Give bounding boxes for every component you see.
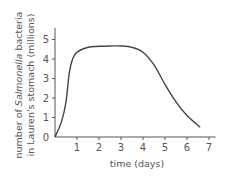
y-axis-label: number of Salmonella bacteria in Lauren'…: [13, 12, 36, 159]
y-axis-ticks: 012345: [43, 34, 55, 143]
y-tick-label: 5: [43, 34, 49, 45]
x-tick-label: 6: [184, 142, 190, 153]
x-tick-label: 5: [162, 142, 168, 153]
y-tick-label: 4: [43, 54, 49, 65]
x-tick-label: 1: [74, 142, 80, 153]
x-axis-label: time (days): [110, 158, 164, 169]
y-tick-label: 2: [43, 93, 49, 104]
y-tick-label: 0: [43, 132, 49, 143]
y-axis-label-line1: number of Salmonella bacteria: [13, 12, 24, 159]
y-tick-label: 1: [43, 112, 49, 123]
data-series: [55, 46, 200, 137]
x-tick-label: 7: [206, 142, 212, 153]
x-tick-label: 4: [140, 142, 146, 153]
salmonella-curve: [55, 46, 200, 137]
y-tick-label: 3: [43, 73, 49, 84]
x-axis-ticks: 1234567: [74, 137, 212, 153]
y-axis-label-line2: in Lauren's stomach (millions): [25, 14, 36, 157]
x-tick-label: 3: [118, 142, 124, 153]
x-tick-label: 2: [96, 142, 102, 153]
chart-canvas: number of Salmonella bacteria in Lauren'…: [0, 0, 236, 184]
